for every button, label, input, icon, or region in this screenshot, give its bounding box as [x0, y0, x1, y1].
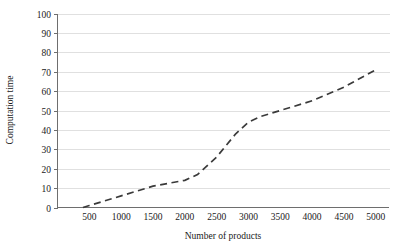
- y-tick-labels: 0102030405060708090100: [37, 10, 52, 214]
- y-tick-label: 100: [37, 10, 52, 20]
- x-tick-label: 2000: [175, 212, 194, 222]
- x-tick-label: 1000: [112, 212, 131, 222]
- computation-time-line: [83, 70, 376, 208]
- y-tick-label: 70: [42, 68, 52, 78]
- y-tick-label: 0: [46, 204, 51, 214]
- y-tick-label: 20: [42, 165, 52, 175]
- y-tick-label: 60: [42, 87, 52, 97]
- x-tick-label: 2500: [207, 212, 226, 222]
- x-tick-label: 4000: [303, 212, 322, 222]
- y-tick-label: 30: [42, 145, 52, 155]
- y-tick-label: 10: [42, 184, 52, 194]
- x-tick-label: 3500: [271, 212, 290, 222]
- x-tick-labels: 500100015002000250030003500400045005000: [82, 212, 385, 222]
- computation-time-chart: 0102030405060708090100 50010001500200025…: [0, 0, 406, 246]
- x-tick-label: 5000: [366, 212, 385, 222]
- chart-canvas: 0102030405060708090100 50010001500200025…: [0, 0, 406, 246]
- gridlines: [58, 15, 391, 189]
- x-tick-label: 1500: [143, 212, 162, 222]
- x-axis-title: Number of products: [185, 231, 262, 241]
- y-axis-title: Computation time: [5, 76, 15, 145]
- x-tick-label: 4500: [334, 212, 353, 222]
- x-tick-label: 3000: [239, 212, 258, 222]
- x-tick-label: 500: [82, 212, 97, 222]
- y-tick-label: 90: [42, 29, 52, 39]
- y-tick-label: 40: [42, 126, 52, 136]
- y-tick-label: 80: [42, 48, 52, 58]
- y-tick-label: 50: [42, 107, 52, 117]
